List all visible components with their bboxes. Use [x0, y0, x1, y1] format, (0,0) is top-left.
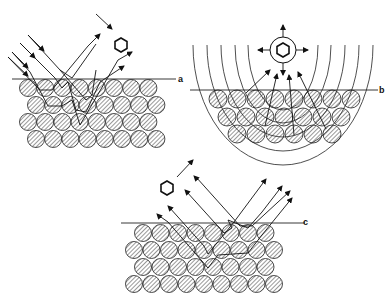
ray: [96, 14, 112, 29]
hexagon-molecule-icon: [161, 181, 173, 195]
atom: [248, 276, 265, 293]
atom: [257, 259, 274, 276]
arrow-icon: [185, 190, 189, 194]
atom: [20, 114, 37, 131]
atom: [323, 90, 341, 108]
molecule-source-circle: [270, 37, 296, 63]
atom: [126, 276, 143, 293]
panel-b: b: [190, 25, 385, 165]
panel-c: c: [121, 160, 308, 293]
atom: [196, 276, 213, 293]
atom: [20, 80, 37, 97]
atom: [114, 97, 131, 114]
atom: [231, 242, 248, 259]
atom: [222, 259, 239, 276]
atom: [96, 131, 113, 148]
atom: [135, 259, 152, 276]
atom: [228, 125, 246, 143]
hexagon-molecule-icon: [115, 38, 127, 52]
panel-label-c: c: [303, 217, 308, 227]
atom: [106, 80, 123, 97]
atom: [285, 90, 303, 108]
atom: [178, 276, 195, 293]
departing-arrow-icon: [177, 160, 193, 177]
atom: [152, 259, 169, 276]
diagram-figure: a b: [0, 0, 390, 303]
arrow-icon: [157, 214, 161, 218]
atom: [266, 90, 284, 108]
atom: [231, 276, 248, 293]
atom: [161, 276, 178, 293]
atom: [152, 225, 169, 242]
atom: [143, 242, 160, 259]
atom: [304, 125, 322, 143]
atom: [37, 80, 54, 97]
atom: [240, 259, 257, 276]
atom: [170, 259, 187, 276]
panel-label-a: a: [178, 74, 184, 84]
atom: [123, 80, 140, 97]
atom: [213, 276, 230, 293]
incoming-rays-a: [8, 14, 112, 76]
atom: [257, 225, 274, 242]
atom: [71, 80, 88, 97]
atom: [266, 242, 283, 259]
atom: [266, 125, 284, 143]
ray-path: [28, 35, 96, 78]
atom: [140, 80, 157, 97]
atom: [28, 131, 45, 148]
atom: [187, 225, 204, 242]
panel-label-b: b: [379, 85, 385, 95]
atom: [54, 114, 71, 131]
atom: [240, 225, 257, 242]
atom: [106, 114, 123, 131]
atom-lattice-c: [126, 225, 283, 293]
atom: [88, 114, 105, 131]
atom: [126, 242, 143, 259]
atom: [140, 114, 157, 131]
atom: [79, 131, 96, 148]
atom: [228, 90, 246, 108]
atom: [247, 90, 265, 108]
atom: [96, 97, 113, 114]
ray-path: [196, 177, 290, 226]
atom: [114, 131, 131, 148]
atom: [135, 225, 152, 242]
atom: [256, 108, 274, 126]
atom: [28, 97, 45, 114]
panel-a: a: [8, 14, 184, 148]
atom: [161, 242, 178, 259]
arrow-icon: [168, 206, 172, 210]
atom: [37, 114, 54, 131]
atom: [45, 131, 62, 148]
atom-lattice-b: [209, 90, 360, 143]
atom: [143, 276, 160, 293]
atom: [62, 131, 79, 148]
atom: [131, 131, 148, 148]
atom: [131, 97, 148, 114]
atom: [148, 131, 165, 148]
atom: [266, 276, 283, 293]
atom: [148, 97, 165, 114]
atom: [123, 114, 140, 131]
